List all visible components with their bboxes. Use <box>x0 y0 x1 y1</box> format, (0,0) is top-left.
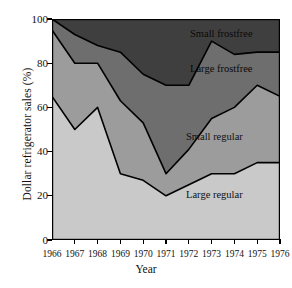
series-label-small-frostfree: Small frostfree <box>190 29 253 40</box>
x-tick-label: 1973 <box>202 250 221 260</box>
series-label-large-regular: Large regular <box>186 190 243 201</box>
x-tick-label: 1975 <box>248 250 267 260</box>
x-tick-mark <box>74 239 75 244</box>
x-tick-mark <box>279 239 280 244</box>
y-tick-label: 80 <box>14 58 48 69</box>
y-tick-label: 100 <box>14 14 48 25</box>
x-axis-tick-labels: 1966196719681969197019711972197319741975… <box>52 244 280 260</box>
plot-area <box>52 19 280 240</box>
x-tick-label: 1974 <box>225 250 244 260</box>
x-tick-label: 1967 <box>65 250 84 260</box>
chart-figure: Dollar refrigerator sales (%) 0204060801… <box>0 0 292 288</box>
x-tick-label: 1972 <box>179 250 198 260</box>
x-tick-mark <box>97 239 98 244</box>
x-tick-mark <box>211 239 212 244</box>
stacked-area-svg <box>52 19 280 240</box>
x-tick-label: 1969 <box>111 250 130 260</box>
x-tick-mark <box>188 239 189 244</box>
x-tick-mark <box>165 239 166 244</box>
x-tick-label: 1970 <box>134 250 153 260</box>
series-label-small-regular: Small regular <box>186 132 243 143</box>
x-tick-label: 1971 <box>157 250 176 260</box>
y-tick-label: 40 <box>14 146 48 157</box>
x-tick-mark <box>120 239 121 244</box>
x-tick-label: 1976 <box>271 250 290 260</box>
x-tick-label: 1968 <box>88 250 107 260</box>
series-label-large-frostfree: Large frostfree <box>190 64 252 75</box>
x-tick-mark <box>143 239 144 244</box>
y-tick-label: 20 <box>14 190 48 201</box>
y-tick-label: 0 <box>14 235 48 246</box>
x-tick-mark <box>234 239 235 244</box>
x-axis-title: Year <box>0 263 292 275</box>
x-tick-mark <box>257 239 258 244</box>
x-tick-label: 1966 <box>43 250 62 260</box>
y-tick-label: 60 <box>14 102 48 113</box>
